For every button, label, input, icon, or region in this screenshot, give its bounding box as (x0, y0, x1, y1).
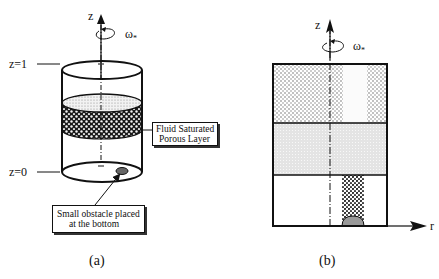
level-z1-label: z=1 (9, 58, 27, 70)
porous-layer-top (62, 94, 142, 112)
omega-label-a: ω* (125, 28, 137, 45)
obstacle-section (342, 216, 364, 226)
level-z0-label: z=0 (9, 166, 27, 178)
omega-label-b: ω* (353, 40, 365, 57)
z-axis-label-b: z (315, 19, 320, 31)
caption-a: (a) (89, 254, 105, 268)
figure-canvas (0, 0, 439, 279)
caption-b: (b) (319, 254, 335, 268)
z-axis-label-a: z (88, 10, 93, 22)
cylinder-bottom (62, 162, 142, 182)
obstacle-callout: Small obstacle placed at the bottom (52, 205, 145, 233)
z-axis-arrow-icon (97, 14, 105, 24)
porous-layer-callout: Fluid Saturated Porous Layer (152, 122, 218, 146)
panel-b-section (273, 19, 427, 231)
rotation-arrow-icon (96, 29, 114, 39)
obstacle (116, 168, 128, 175)
r-axis-label: r (430, 220, 434, 232)
